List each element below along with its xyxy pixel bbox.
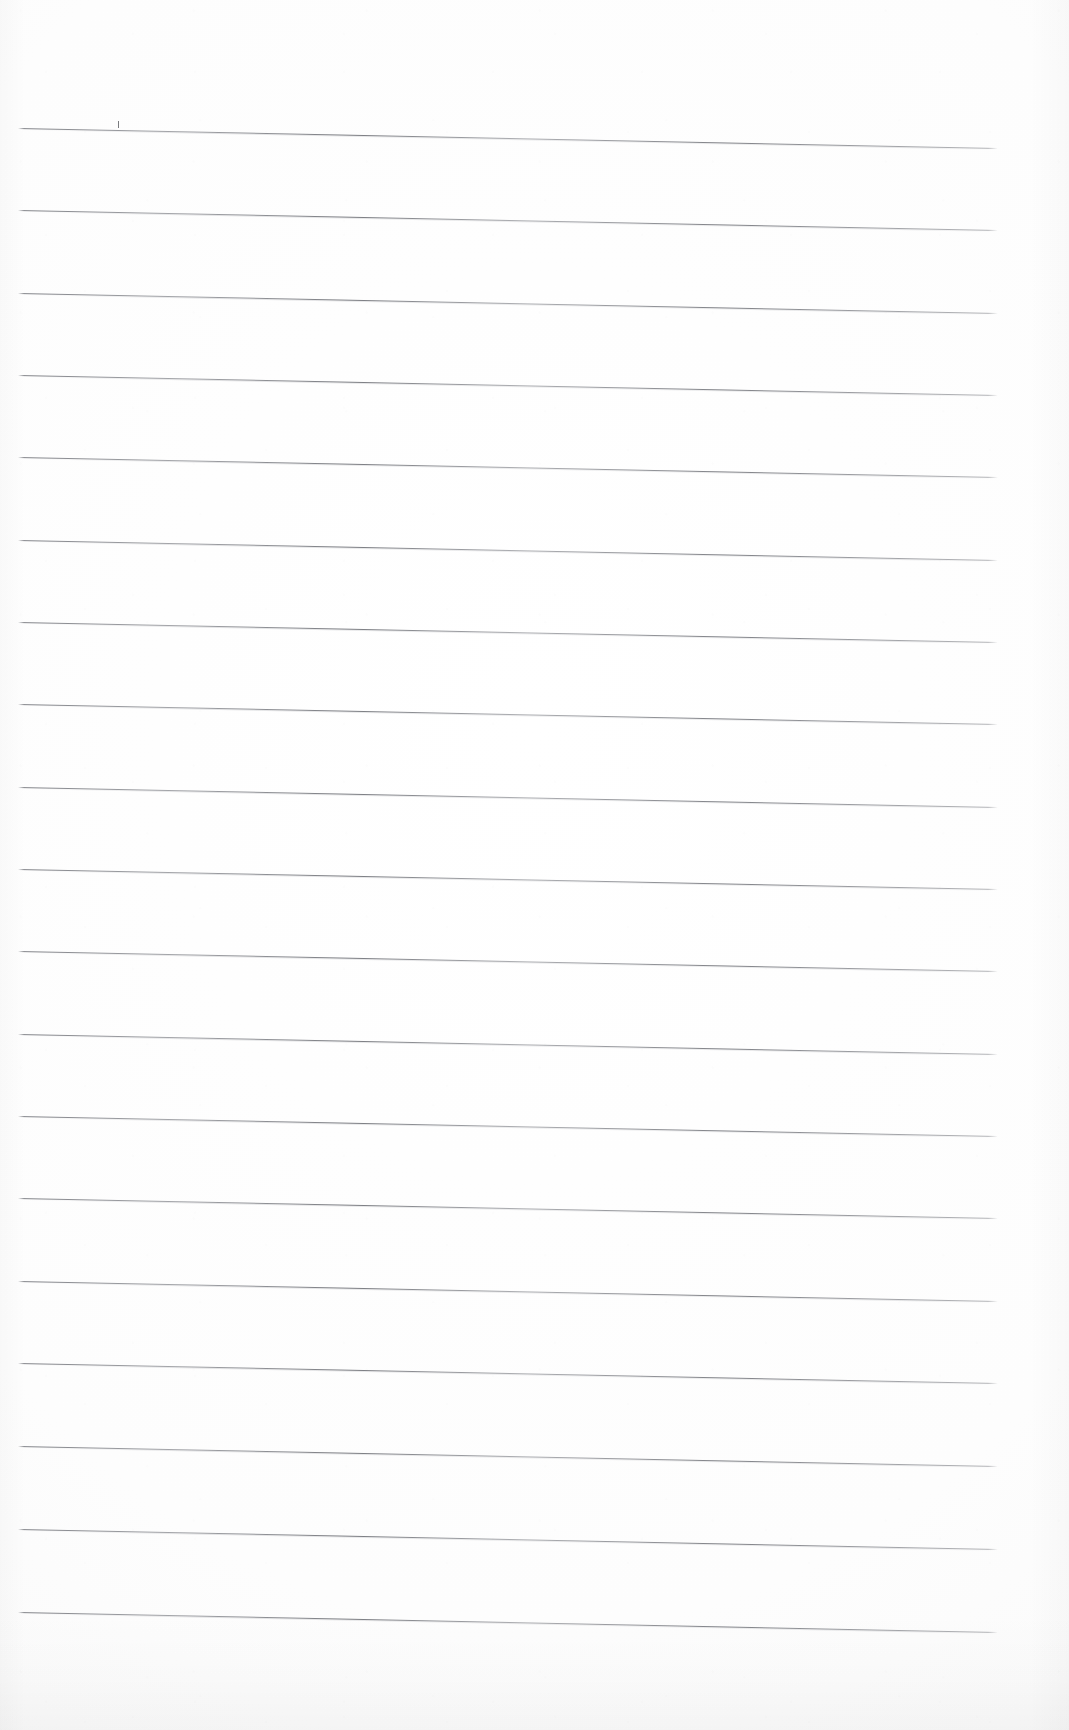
scanned-page — [0, 0, 1069, 1730]
rule-line-15 — [18, 1281, 998, 1302]
right-edge-shading — [1029, 0, 1069, 1730]
rule-line-13 — [18, 1116, 998, 1137]
rule-line-4 — [18, 375, 998, 396]
rule-line-8 — [18, 704, 998, 725]
paper-grain-layer — [0, 0, 1069, 1730]
rule-line-16 — [18, 1363, 998, 1384]
bottom-edge-smudge — [0, 1610, 1069, 1730]
rule-line-1 — [18, 128, 998, 149]
rule-line-12 — [18, 1034, 998, 1055]
rule-line-17 — [18, 1446, 998, 1467]
rule-line-2 — [18, 210, 998, 231]
pencil-tick-mark — [118, 121, 119, 128]
left-edge-shading — [0, 0, 26, 1730]
paper-tone-layer — [0, 0, 1069, 1730]
rule-line-7 — [18, 622, 998, 643]
rule-line-6 — [18, 540, 998, 561]
rule-line-14 — [18, 1198, 998, 1219]
rule-line-11 — [18, 951, 998, 972]
rule-line-3 — [18, 293, 998, 314]
rule-line-9 — [18, 787, 998, 808]
rule-line-19 — [18, 1612, 998, 1633]
rule-line-10 — [18, 869, 998, 890]
rule-line-18 — [18, 1529, 998, 1550]
rule-line-5 — [18, 457, 998, 478]
